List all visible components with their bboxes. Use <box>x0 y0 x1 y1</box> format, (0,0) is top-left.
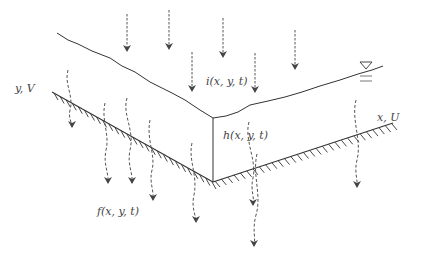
infiltration-arrow <box>355 100 359 187</box>
infiltration-arrow <box>191 143 196 222</box>
infiltration-arrow <box>149 120 153 200</box>
infiltration-arrow <box>126 98 132 183</box>
arrowhead-icon <box>249 199 257 206</box>
arrowhead-icon <box>68 121 76 128</box>
infiltration-label: f(x, y, t) <box>97 205 139 218</box>
ground-hatch-left <box>54 93 216 189</box>
y-axis-label: y, V <box>15 82 35 95</box>
infiltration-arrows <box>67 70 361 247</box>
diagram-canvas: y, V x, U i(x, y, t) h(x, y, t) f(x, y, … <box>0 0 440 255</box>
infiltration-arrow <box>104 103 108 183</box>
diagram-svg <box>0 0 440 255</box>
rainfall-label: i(x, y, t) <box>206 75 247 88</box>
depth-label: h(x, y, t) <box>223 129 268 142</box>
x-axis-label: x, U <box>377 111 399 124</box>
infiltration-arrow <box>67 70 72 127</box>
arrowhead-icon <box>192 216 200 223</box>
ground-left-line <box>52 92 213 182</box>
arrowhead-icon <box>250 240 258 247</box>
